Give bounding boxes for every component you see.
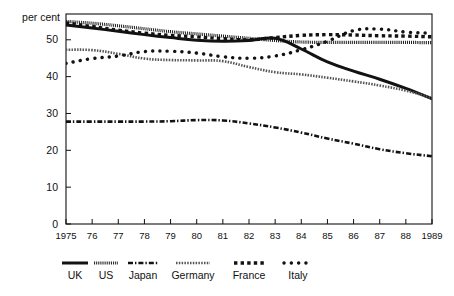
x-tick-label: 86 (348, 230, 359, 241)
y-axis-unit-label-group: per cent (22, 11, 60, 23)
y-tick-label: 40 (46, 70, 58, 82)
y-tick-label: 10 (46, 181, 58, 193)
x-tick-label: 88 (401, 230, 412, 241)
x-tick-label: 77 (113, 230, 124, 241)
x-tick-label: 84 (296, 230, 307, 241)
x-tick-label: 81 (218, 230, 229, 241)
x-tick-label: 76 (87, 230, 98, 241)
legend-label-france: France (233, 269, 266, 281)
x-tick-label: 78 (139, 230, 150, 241)
x-tick-label: 1989 (421, 230, 442, 241)
y-tick-label: 0 (52, 218, 58, 230)
line-chart: per cent 01020304050 1975767778798081828… (0, 0, 454, 296)
x-tick-label: 83 (270, 230, 281, 241)
x-tick-label: 87 (374, 230, 385, 241)
legend-label-germany: Germany (171, 269, 215, 281)
y-tick-label: 50 (46, 33, 58, 45)
x-tick-label: 1975 (55, 230, 76, 241)
legend-label-uk: UK (68, 269, 83, 281)
chart-background (0, 0, 454, 296)
x-tick-label: 82 (244, 230, 255, 241)
legend-label-us: US (99, 269, 114, 281)
x-tick-label: 80 (191, 230, 202, 241)
x-tick-label: 85 (322, 230, 333, 241)
x-tick-label: 79 (165, 230, 176, 241)
y-axis-unit-label: per cent (22, 11, 60, 23)
y-tick-label: 20 (46, 144, 58, 156)
y-tick-label: 30 (46, 107, 58, 119)
chart-container: per cent 01020304050 1975767778798081828… (0, 0, 454, 296)
legend-label-japan: Japan (129, 269, 158, 281)
legend-label-italy: Italy (288, 269, 308, 281)
